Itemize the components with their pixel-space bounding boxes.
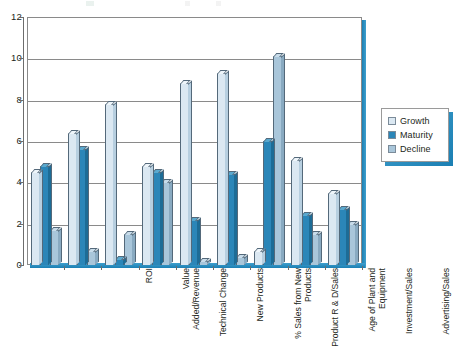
bar-side-face [58, 227, 62, 265]
y-tick-mark [19, 265, 24, 266]
bar-side-face [188, 81, 192, 265]
bar-maturity-6 [263, 141, 272, 265]
bar-side-face [318, 231, 322, 265]
x-category-label: Age of Plant and Equipment [367, 268, 387, 360]
x-category-label: % Sales from New Products [293, 268, 313, 360]
bar-growth-8 [328, 193, 337, 265]
y-tick-mark [19, 182, 24, 183]
legend-item-maturity[interactable]: Maturity [388, 128, 444, 142]
plot-right-accent [362, 20, 366, 268]
bar-side-face [262, 248, 266, 265]
x-category-label: New Products [255, 268, 265, 360]
chart-legend: GrowthMaturityDecline [381, 108, 449, 162]
bar-chart: 024681012 ROIValue Added/RevenueTechnica… [0, 0, 462, 364]
bar-side-face [39, 169, 43, 265]
bar-group [105, 17, 133, 265]
bar-growth-5 [217, 73, 226, 265]
bar-growth-4 [180, 83, 189, 265]
bar-growth-1 [68, 133, 77, 265]
x-axis-labels: ROIValue Added/RevenueTechnical ChangeNe… [27, 268, 362, 364]
bar-group [180, 17, 208, 265]
bar-side-face [225, 70, 229, 265]
bar-group [68, 17, 96, 265]
bar-growth-6 [254, 251, 263, 265]
y-tick-mark [19, 58, 24, 59]
x-category-label: Product R & D/Sales [330, 268, 340, 360]
bar-side-face [85, 147, 89, 265]
y-tick-mark [19, 17, 24, 18]
legend-swatch-icon [388, 117, 396, 125]
bar-growth-3 [142, 166, 151, 265]
legend-label: Growth [400, 117, 430, 126]
bar-side-face [48, 163, 52, 265]
bar-side-face [169, 180, 173, 265]
legend-label: Maturity [400, 131, 433, 140]
x-category-label: ROI [144, 268, 154, 360]
x-category-label: Advertising/Sales [441, 268, 451, 360]
bar-side-face [271, 138, 275, 265]
x-category-label: Technical Change [218, 268, 228, 360]
x-tick-mark [64, 266, 65, 270]
bar-group [217, 17, 245, 265]
y-tick-mark [19, 224, 24, 225]
x-category-label: Value Added/Revenue [181, 268, 201, 360]
bar-growth-0 [31, 172, 40, 265]
x-tick-mark [176, 266, 177, 270]
bars-layer [27, 17, 362, 265]
bar-side-face [150, 163, 154, 265]
legend-swatch-icon [388, 131, 396, 139]
x-tick-mark [288, 266, 289, 270]
bar-group [142, 17, 170, 265]
bar-side-face [299, 157, 303, 265]
legend-swatch-icon [388, 145, 396, 153]
bar-side-face [197, 217, 201, 265]
x-tick-mark [362, 266, 363, 270]
scan-artifact [60, 1, 320, 6]
bar-group [31, 17, 59, 265]
legend-item-decline[interactable]: Decline [388, 142, 444, 156]
legend-item-growth[interactable]: Growth [388, 114, 444, 128]
x-tick-mark [250, 266, 251, 270]
bar-side-face [346, 207, 350, 265]
x-tick-mark [325, 266, 326, 270]
bar-side-face [355, 221, 359, 265]
x-tick-mark [101, 266, 102, 270]
bar-group [291, 17, 319, 265]
x-category-label: Investment/Sales [404, 268, 414, 360]
bar-side-face [95, 248, 99, 265]
bar-group [254, 17, 282, 265]
y-tick-mark [19, 100, 24, 101]
bar-side-face [336, 190, 340, 265]
bar-growth-7 [291, 160, 300, 265]
x-tick-mark [213, 266, 214, 270]
bar-group [328, 17, 356, 265]
bar-side-face [132, 231, 136, 265]
bar-growth-2 [105, 104, 114, 265]
bar-side-face [113, 101, 117, 265]
bar-side-face [76, 130, 80, 265]
bar-side-face [281, 54, 285, 265]
bar-side-face [160, 169, 164, 265]
legend-label: Decline [400, 145, 431, 154]
bar-side-face [309, 213, 313, 265]
x-tick-mark [139, 266, 140, 270]
bar-side-face [234, 171, 238, 265]
y-tick-mark [19, 141, 24, 142]
